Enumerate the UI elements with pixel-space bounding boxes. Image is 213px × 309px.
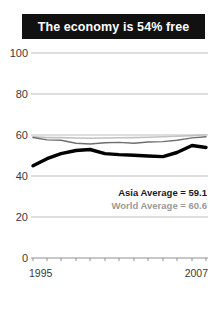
series-country: [33, 146, 206, 166]
x-axis-label-end: 2007: [185, 268, 208, 279]
y-axis-label-20: 20: [0, 212, 28, 223]
x-axis-label-start: 1995: [29, 268, 52, 279]
plot-area: 100 80 60 40 20 0 1995 2007 Asia Average…: [0, 0, 213, 309]
y-axis-label-60: 60: [0, 130, 28, 141]
legend-item-world-average: World Average = 60.6: [112, 199, 207, 212]
y-axis-label-80: 80: [0, 89, 28, 100]
y-axis-label-0: 0: [0, 253, 28, 264]
y-axis-label-40: 40: [0, 171, 28, 182]
chart-canvas: [0, 0, 213, 309]
chart-card: The economy is 54% free: [0, 0, 213, 309]
y-axis-label-100: 100: [0, 48, 28, 59]
legend-item-asia-average: Asia Average = 59.1: [112, 186, 207, 199]
chart-legend: Asia Average = 59.1 World Average = 60.6: [112, 186, 207, 212]
